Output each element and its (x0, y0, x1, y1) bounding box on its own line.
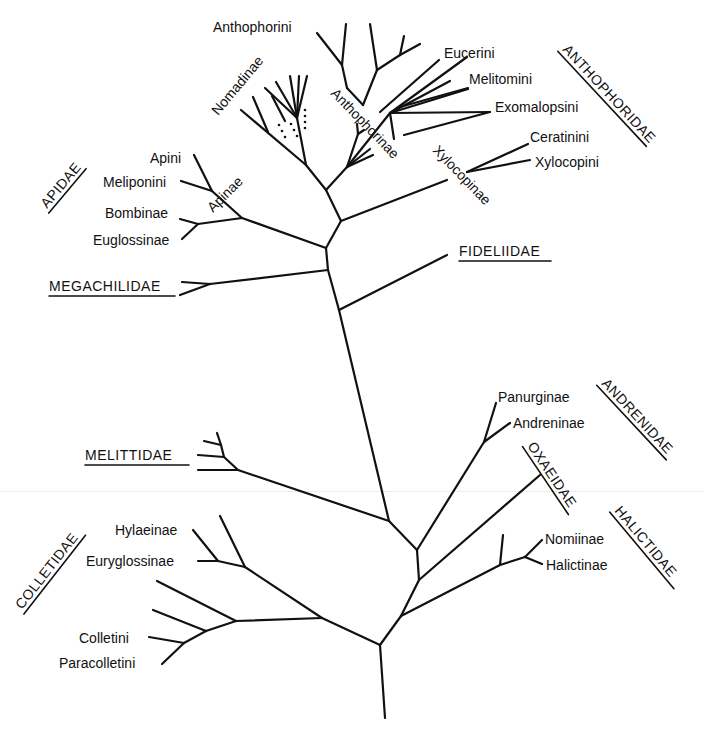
melittidae-clade (198, 433, 389, 521)
family-oxaeidae: OXAEIDAE (523, 437, 583, 514)
label-ceratinini: Ceratinini (530, 129, 589, 145)
family-fideliidae: FIDELIIDAE (459, 243, 551, 261)
colletidae-clade (149, 516, 380, 664)
label-colletini: Colletini (79, 630, 129, 646)
phylogenetic-tree: Anthophorini Eucerini Melitomini Exomalo… (0, 0, 704, 743)
label-euglossinae: Euglossinae (93, 232, 169, 248)
label-meliponini: Meliponini (103, 174, 166, 190)
label-xylocopini: Xylocopini (535, 154, 599, 170)
family-melittidae: MELITTIDAE (85, 447, 189, 465)
family-label-fideliidae: FIDELIIDAE (459, 243, 540, 259)
label-euryglossinae: Euryglossinae (86, 553, 174, 569)
andrenidae-clade (417, 403, 510, 550)
label-bombinae: Bombinae (105, 205, 168, 221)
label-apini: Apini (150, 150, 181, 166)
label-eucerini: Eucerini (444, 45, 495, 61)
megachilidae-clade (180, 270, 328, 295)
family-megachilidae: MEGACHILIDAE (49, 278, 175, 296)
family-label-halictidae: HALICTIDAE (612, 503, 680, 580)
apidae-clade (180, 155, 326, 248)
label-melitomini: Melitomini (469, 71, 532, 87)
family-andrenidae: ANDRENIDAE (597, 374, 679, 460)
label-hylaeinae: Hylaeinae (115, 522, 177, 538)
family-label-oxaeidae: OXAEIDAE (525, 439, 581, 511)
label-xylocopinae: Xylocopinae (430, 142, 495, 208)
family-label-apidae: APIDAE (37, 159, 84, 211)
label-paracolletini: Paracolletini (59, 655, 135, 671)
label-anthophorini: Anthophorini (213, 19, 292, 35)
label-andreninae: Andreninae (513, 415, 585, 431)
halictidae-clade (401, 535, 542, 616)
label-nomiinae: Nomiinae (545, 531, 604, 547)
family-colletidae: COLLETIDAE (11, 525, 86, 614)
main-trunk (326, 190, 419, 718)
family-label-colletidae: COLLETIDAE (12, 529, 81, 611)
family-halictidae: HALICTIDAE (610, 501, 687, 589)
fideliidae-clade (339, 255, 447, 310)
nomadinae-clade (241, 76, 326, 190)
family-label-andrenidae: ANDRENIDAE (599, 375, 677, 457)
label-panurginae: Panurginae (498, 389, 570, 405)
label-halictinae: Halictinae (546, 557, 608, 573)
label-apinae: Apinae (204, 173, 246, 215)
family-apidae: APIDAE (36, 158, 86, 213)
family-label-melittidae: MELITTIDAE (85, 447, 172, 463)
label-exomalopsini: Exomalopsini (495, 99, 578, 115)
family-label-megachilidae: MEGACHILIDAE (49, 278, 161, 294)
oxaeidae-clade (419, 475, 540, 580)
